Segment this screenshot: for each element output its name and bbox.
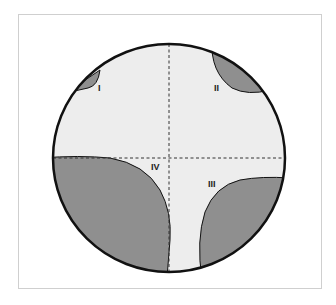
region-i-label: I [98, 83, 101, 93]
region-iii-label: III [208, 179, 216, 189]
circle-diagram: I II III IV [0, 0, 336, 305]
region-ii-label: II [214, 83, 219, 93]
region-iv-label: IV [151, 162, 160, 172]
